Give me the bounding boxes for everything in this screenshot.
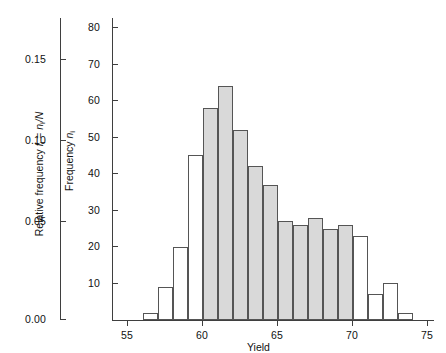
x-axis-tick-label-75: 75 xyxy=(421,329,433,341)
frequency-tick-label-80: 80 xyxy=(88,21,100,33)
frequency-tick-label-40: 40 xyxy=(88,167,100,179)
x-axis-line xyxy=(112,320,434,321)
x-axis-tick-65 xyxy=(277,321,278,326)
histogram-bar xyxy=(188,155,203,320)
freq-title-sub-i: i xyxy=(68,131,77,133)
relative-frequency-tick-0.15 xyxy=(61,59,66,60)
x-axis-tick-70 xyxy=(352,321,353,326)
x-axis-tick-75 xyxy=(427,321,428,326)
histogram-bar xyxy=(308,218,323,320)
histogram-bar xyxy=(158,287,173,320)
relative-frequency-axis-line xyxy=(60,18,61,320)
histogram-bar xyxy=(278,221,293,320)
histogram-plot-area xyxy=(113,18,446,320)
rel-freq-title-n: n xyxy=(33,124,45,130)
x-axis-tick-label-60: 60 xyxy=(196,329,208,341)
frequency-tick-label-70: 70 xyxy=(88,58,100,70)
x-axis-title: Yield xyxy=(247,341,270,353)
x-axis-tick-label-65: 65 xyxy=(271,329,283,341)
histogram-bar xyxy=(248,166,263,320)
histogram-bar xyxy=(323,229,338,320)
rel-freq-title-f: f xyxy=(33,143,45,146)
x-axis-tick-label-55: 55 xyxy=(121,329,133,341)
relative-frequency-tick-0.00 xyxy=(61,319,66,320)
freq-title-n: n xyxy=(63,133,75,139)
histogram-bar xyxy=(338,225,353,320)
x-axis-tick-label-70: 70 xyxy=(346,329,358,341)
histogram-bar xyxy=(293,225,308,320)
x-axis-tick-55 xyxy=(127,321,128,326)
histogram-bar xyxy=(398,313,413,320)
histogram-bar xyxy=(383,283,398,320)
rel-freq-title-equals: = xyxy=(33,130,45,142)
histogram-bar xyxy=(203,108,218,320)
frequency-tick-label-60: 60 xyxy=(88,94,100,106)
frequency-tick-label-20: 20 xyxy=(88,240,100,252)
histogram-bar xyxy=(353,236,368,320)
rel-freq-title-suffix: /N xyxy=(33,112,45,123)
rel-freq-title-prefix: Relative frequency xyxy=(33,146,45,236)
x-axis-tick-60 xyxy=(202,321,203,326)
frequency-tick-label-50: 50 xyxy=(88,131,100,143)
frequency-tick-label-10: 10 xyxy=(88,277,100,289)
rel-freq-title-sub-i2: i xyxy=(38,122,47,124)
relative-frequency-tick-label-0.00: 0.00 xyxy=(25,313,46,325)
frequency-axis-title: Frequency ni xyxy=(63,81,75,241)
histogram-bar xyxy=(143,313,158,320)
freq-title-prefix: Frequency xyxy=(63,139,75,192)
frequency-tick-label-30: 30 xyxy=(88,204,100,216)
histogram-figure: 0.15 0.10 0.05 0.00 Relative frequency f… xyxy=(0,0,446,353)
histogram-bar xyxy=(233,130,248,320)
relative-frequency-axis-title: Relative frequency fi = ni/N xyxy=(33,74,45,274)
histogram-bar xyxy=(173,247,188,320)
relative-frequency-tick-label-0.15: 0.15 xyxy=(25,53,46,65)
histogram-bar xyxy=(218,86,233,320)
histogram-bar xyxy=(368,294,383,320)
histogram-bar xyxy=(263,185,278,320)
